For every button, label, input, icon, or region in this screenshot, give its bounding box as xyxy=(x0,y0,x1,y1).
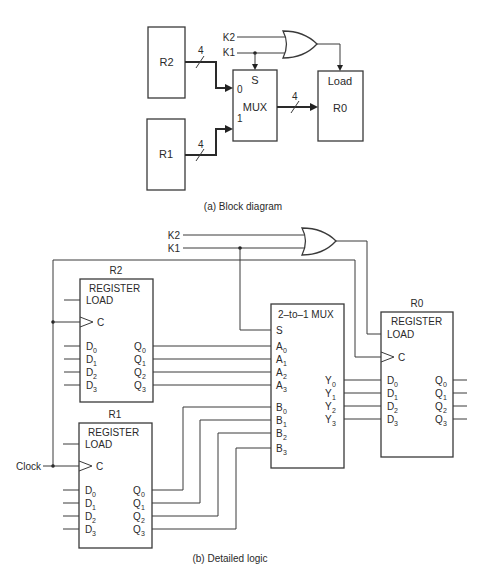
detailed-logic: K2 K1 Clock R2 REGISTER LOAD C D0 xyxy=(16,228,467,564)
wire-r1q1-to-b1 xyxy=(152,420,271,503)
load-label: LOAD xyxy=(86,295,113,306)
arrow-head-icon xyxy=(225,84,233,92)
or-gate xyxy=(302,228,336,255)
b0-label: B xyxy=(276,402,283,413)
subscript: 0 xyxy=(443,381,447,388)
q1-label: Q xyxy=(134,354,142,365)
subscript: 0 xyxy=(283,347,287,354)
q2-label: Q xyxy=(435,401,443,412)
y3-label: Y xyxy=(325,414,332,425)
q2-label: Q xyxy=(134,367,142,378)
subscript: 2 xyxy=(332,407,336,414)
b3-label: B xyxy=(276,443,283,454)
block-r0-load-label: Load xyxy=(328,75,352,87)
block-or-gate xyxy=(283,31,317,58)
bus-r1-to-mux xyxy=(185,129,228,155)
arrow-head-icon xyxy=(252,64,258,70)
bus-width-label: 4 xyxy=(198,45,204,56)
register-name: R1 xyxy=(109,409,122,420)
subscript: 2 xyxy=(142,373,146,380)
load-label: LOAD xyxy=(387,329,414,340)
clock-pin-label: C xyxy=(97,317,104,328)
block-mux-label: MUX xyxy=(243,101,268,113)
register-name: R2 xyxy=(110,265,123,276)
subscript: 3 xyxy=(92,530,96,537)
clock-label: Clock xyxy=(16,461,42,472)
subscript: 3 xyxy=(394,420,398,427)
arrow-head-icon xyxy=(310,103,318,111)
a2-label: A xyxy=(276,367,283,378)
subscript: 1 xyxy=(92,504,96,511)
block-r2-label: R2 xyxy=(159,56,173,68)
subscript: 2 xyxy=(394,407,398,414)
k1-label: K1 xyxy=(168,243,181,254)
register-r2: R2 REGISTER LOAD C D0 D1 D2 D3 Q0 Q1 Q2 … xyxy=(53,265,271,402)
subscript: 2 xyxy=(283,434,287,441)
subscript: 0 xyxy=(394,381,398,388)
subscript: 3 xyxy=(332,420,336,427)
b1-label: B xyxy=(276,415,283,426)
q3-label: Q xyxy=(435,414,443,425)
subscript: 0 xyxy=(332,381,336,388)
subscript: 3 xyxy=(141,530,145,537)
a3-label: A xyxy=(276,380,283,391)
arrow-head-icon xyxy=(225,125,233,133)
block-diagram-caption: (a) Block diagram xyxy=(204,201,282,212)
mux-select-label: S xyxy=(276,325,283,336)
subscript: 1 xyxy=(443,394,447,401)
subscript: 0 xyxy=(283,408,287,415)
bus-width-label: 4 xyxy=(292,91,298,102)
subscript: 3 xyxy=(443,420,447,427)
q2-label: Q xyxy=(133,511,141,522)
block-r0-label: R0 xyxy=(333,102,347,114)
q0-label: Q xyxy=(133,485,141,496)
subscript: 0 xyxy=(93,347,97,354)
block-k2-label: K2 xyxy=(223,32,236,43)
subscript: 3 xyxy=(142,386,146,393)
register-type: REGISTER xyxy=(88,427,139,438)
k2-label: K2 xyxy=(168,230,181,241)
subscript: 3 xyxy=(283,386,287,393)
q0-label: Q xyxy=(134,341,142,352)
block-diagram: R2 R1 S MUX 0 1 Load R0 4 4 4 K2 K1 xyxy=(147,27,363,212)
register-r1: R1 REGISTER LOAD C D0 D1 D2 D3 Q0 Q1 Q2 … xyxy=(53,407,271,548)
detailed-logic-caption: (b) Detailed logic xyxy=(192,553,267,564)
bus-r2-to-mux xyxy=(185,62,228,88)
subscript: 1 xyxy=(142,360,146,367)
subscript: 1 xyxy=(283,360,287,367)
q1-label: Q xyxy=(133,498,141,509)
subscript: 2 xyxy=(443,407,447,414)
q1-label: Q xyxy=(435,388,443,399)
wire-or-to-load xyxy=(317,44,340,67)
subscript: 1 xyxy=(332,394,336,401)
q3-label: Q xyxy=(134,380,142,391)
mux-2-to-1: 2–to–1 MUX S A0 A1 A2 A3 B0 B1 B2 B3 Y0 … xyxy=(271,304,381,468)
y2-label: Y xyxy=(325,401,332,412)
clock-pin-label: C xyxy=(96,461,103,472)
subscript: 2 xyxy=(141,517,145,524)
block-mux-input0-label: 0 xyxy=(237,84,243,95)
b2-label: B xyxy=(276,428,283,439)
subscript: 3 xyxy=(93,386,97,393)
subscript: 1 xyxy=(141,504,145,511)
subscript: 0 xyxy=(92,491,96,498)
q3-label: Q xyxy=(133,524,141,535)
q0-label: Q xyxy=(435,375,443,386)
subscript: 2 xyxy=(283,373,287,380)
subscript: 1 xyxy=(283,421,287,428)
block-mux-select-label: S xyxy=(251,74,258,86)
a1-label: A xyxy=(276,354,283,365)
register-transfer-diagram: R2 R1 S MUX 0 1 Load R0 4 4 4 K2 K1 xyxy=(0,0,486,587)
mux-title: 2–to–1 MUX xyxy=(278,309,334,320)
arrow-head-icon xyxy=(337,65,343,71)
y1-label: Y xyxy=(325,388,332,399)
register-name: R0 xyxy=(411,298,424,309)
block-k1-label: K1 xyxy=(223,47,236,58)
subscript: 1 xyxy=(93,360,97,367)
register-type: REGISTER xyxy=(391,316,442,327)
subscript: 2 xyxy=(92,517,96,524)
block-mux-input1-label: 1 xyxy=(237,113,243,124)
subscript: 1 xyxy=(394,394,398,401)
load-label: LOAD xyxy=(85,439,112,450)
y0-label: Y xyxy=(325,375,332,386)
